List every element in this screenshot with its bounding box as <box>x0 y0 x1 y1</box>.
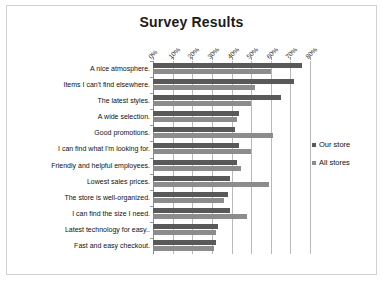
legend-item[interactable]: All stores <box>312 158 350 167</box>
bar-our-store <box>153 95 281 100</box>
bar-all-stores <box>153 230 216 235</box>
bar-our-store <box>153 240 216 245</box>
bar-group <box>153 63 310 77</box>
bar-group <box>153 176 310 190</box>
bar-group <box>153 127 310 141</box>
category-label: Items I can't find elsewhere. <box>63 81 150 89</box>
gridline <box>310 61 311 254</box>
category-label: Friendly and helpful employees. <box>51 162 150 170</box>
bar-group <box>153 111 310 125</box>
category-label: Lowest sales prices. <box>87 178 150 186</box>
bar-all-stores <box>153 117 237 122</box>
category-label: Good promotions. <box>94 129 150 137</box>
bar-group <box>153 240 310 254</box>
bar-group <box>153 192 310 206</box>
bar-group <box>153 224 310 238</box>
category-label: I can find the size I need. <box>72 210 150 218</box>
category-label: The latest styles. <box>97 97 150 105</box>
chart-legend: Our storeAll stores <box>312 140 350 176</box>
bar-all-stores <box>153 246 214 251</box>
bar-our-store <box>153 176 230 181</box>
bar-our-store <box>153 208 230 213</box>
category-label: Latest technology for easy.. <box>65 226 150 234</box>
bar-our-store <box>153 143 239 148</box>
bar-all-stores <box>153 133 273 138</box>
legend-label: Our store <box>319 140 350 149</box>
bar-our-store <box>153 224 218 229</box>
bar-our-store <box>153 160 237 165</box>
bar-all-stores <box>153 166 241 171</box>
category-label: The store is well-organized. <box>64 194 150 202</box>
category-label: Fast and easy checkout. <box>74 242 150 250</box>
chart-canvas: Survey Results 0%10%20%30%40%50%60%70%80… <box>0 0 383 281</box>
bar-all-stores <box>153 101 251 106</box>
bar-group <box>153 160 310 174</box>
bar-all-stores <box>153 182 269 187</box>
bar-group <box>153 95 310 109</box>
bar-group <box>153 208 310 222</box>
legend-label: All stores <box>319 158 350 167</box>
category-axis-labels: A nice atmosphere.Items I can't find els… <box>12 61 150 254</box>
bar-all-stores <box>153 149 251 154</box>
bar-our-store <box>153 111 239 116</box>
category-label: A wide selection. <box>98 113 150 121</box>
bar-all-stores <box>153 69 271 74</box>
bar-all-stores <box>153 214 247 219</box>
bar-our-store <box>153 79 294 84</box>
bar-all-stores <box>153 85 255 90</box>
bar-group <box>153 79 310 93</box>
category-label: A nice atmosphere. <box>90 65 150 73</box>
legend-swatch-icon <box>312 161 316 165</box>
category-label: I can find what I'm looking for. <box>58 145 150 153</box>
bar-our-store <box>153 127 235 132</box>
chart-title: Survey Results <box>0 14 383 30</box>
bar-our-store <box>153 192 228 197</box>
legend-item[interactable]: Our store <box>312 140 350 149</box>
bar-our-store <box>153 63 302 68</box>
bar-all-stores <box>153 198 224 203</box>
plot-area <box>153 61 310 254</box>
legend-swatch-icon <box>312 143 316 147</box>
bar-group <box>153 143 310 157</box>
